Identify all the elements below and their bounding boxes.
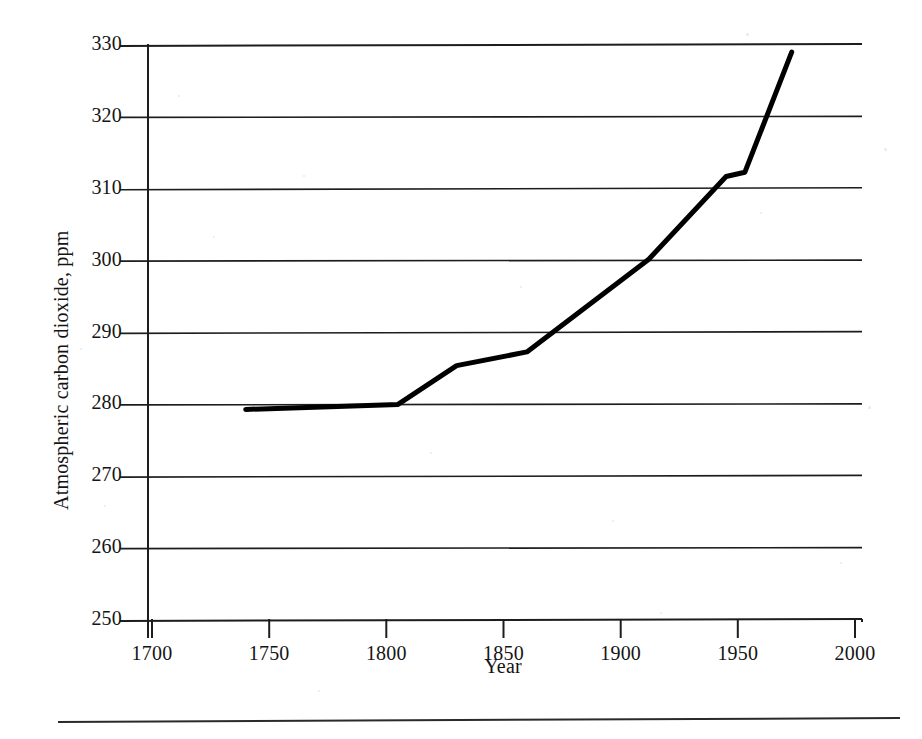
footer-rule: [58, 718, 900, 722]
y-tick-label: 330: [62, 32, 122, 55]
y-tick-label: 250: [62, 607, 122, 630]
gridlines-group: [120, 44, 862, 621]
chart-plot-area: [0, 0, 922, 739]
figure-container: 250260270280290300310320330 170017501800…: [0, 0, 922, 739]
x-tick-marks-group: [152, 619, 855, 638]
x-tick-label: 2000: [820, 642, 890, 665]
x-axis-title: Year: [403, 655, 603, 678]
data-series-line: [246, 52, 792, 409]
x-tick-label: 1950: [703, 642, 773, 665]
x-tick-label: 1750: [234, 642, 304, 665]
x-tick-label: 1700: [117, 642, 187, 665]
y-axis-title: Atmospheric carbon dioxide, ppm: [50, 150, 73, 510]
y-tick-label: 260: [62, 535, 122, 558]
y-tick-label: 320: [62, 104, 122, 127]
